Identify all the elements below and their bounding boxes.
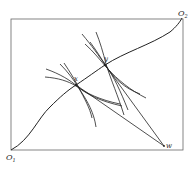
point-w-marker <box>163 145 165 147</box>
edgeworth-box-figure: x y w O1 O2 <box>0 0 196 170</box>
label-x: x <box>74 75 78 83</box>
point-y-marker <box>104 64 106 66</box>
label-origin-1: O1 <box>6 153 16 163</box>
label-w: w <box>166 142 172 150</box>
point-x-marker <box>75 84 77 86</box>
diagram-canvas: x y w O1 O2 <box>0 0 196 170</box>
line-x-to-w <box>76 85 164 146</box>
line-y-to-w <box>105 65 164 146</box>
contract-curve <box>11 18 182 150</box>
label-y: y <box>103 55 109 63</box>
label-origin-2: O2 <box>178 9 188 19</box>
